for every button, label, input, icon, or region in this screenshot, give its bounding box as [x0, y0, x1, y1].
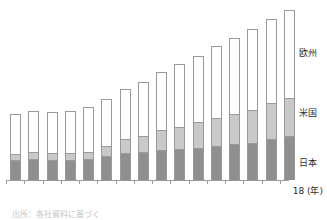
x-axis-tick	[207, 180, 208, 184]
x-axis-tick	[43, 180, 44, 184]
bar-segment-japan	[266, 139, 277, 180]
x-axis-tick	[116, 180, 117, 184]
bar-segment-europe	[266, 19, 277, 103]
bar-segment-us	[65, 153, 76, 160]
x-axis-tick	[61, 180, 62, 184]
bar-segment-japan	[174, 149, 185, 180]
x-axis-line	[6, 180, 289, 181]
x-axis-tick	[6, 180, 7, 184]
bar-segment-japan	[138, 152, 149, 180]
bar-segment-japan	[284, 136, 295, 180]
bar-13	[193, 56, 204, 180]
bar-04	[28, 111, 39, 180]
bar-segment-japan	[120, 153, 131, 180]
bar-segment-europe	[65, 111, 76, 153]
bar-segment-japan	[229, 144, 240, 180]
bar-03	[10, 114, 21, 180]
bar-segment-europe	[156, 72, 167, 130]
bar-segment-europe	[10, 114, 21, 154]
bar-segment-japan	[65, 160, 76, 181]
bar-segment-us	[266, 103, 277, 139]
bar-segment-europe	[120, 89, 131, 139]
bar-segment-us	[83, 152, 94, 159]
bar-segment-europe	[211, 46, 222, 117]
bar-segment-japan	[10, 160, 21, 180]
bar-segment-europe	[83, 107, 94, 151]
bar-17	[266, 19, 277, 180]
x-axis-tick	[189, 180, 190, 184]
series-label-us: 米国	[299, 108, 317, 119]
bar-segment-us	[174, 127, 185, 149]
x-axis-tick	[24, 180, 25, 184]
bar-segment-europe	[284, 10, 295, 98]
bar-06	[65, 111, 76, 180]
bar-09	[120, 89, 131, 180]
x-axis-tick	[262, 180, 263, 184]
bar-segment-japan	[47, 160, 58, 181]
stacked-bar-chart: 欧州 米国 日本 18 (年) 出所：各社資料に基づく	[0, 0, 327, 220]
bar-segment-us	[229, 114, 240, 144]
x-axis-tick	[225, 180, 226, 184]
bar-segment-us	[10, 154, 21, 161]
bar-segment-europe	[138, 82, 149, 136]
bar-segment-japan	[83, 159, 94, 180]
bar-segment-japan	[28, 159, 39, 180]
bar-segment-us	[193, 122, 204, 147]
bar-10	[138, 82, 149, 180]
x-axis-tick	[79, 180, 80, 184]
bar-segment-europe	[28, 111, 39, 153]
bar-segment-us	[120, 139, 131, 153]
source-note: 出所：各社資料に基づく	[12, 210, 100, 219]
bar-18	[284, 10, 295, 180]
bar-11	[156, 72, 167, 180]
bar-segment-us	[247, 110, 258, 143]
x-axis-tick	[280, 180, 281, 184]
bar-segment-japan	[193, 148, 204, 180]
x-axis-tick	[152, 180, 153, 184]
bar-segment-europe	[247, 29, 258, 110]
series-label-japan: 日本	[299, 158, 317, 169]
bar-segment-japan	[211, 146, 222, 180]
bar-16	[247, 29, 258, 180]
bar-14	[211, 46, 222, 180]
bar-08	[101, 99, 112, 180]
bar-segment-japan	[247, 143, 258, 180]
bar-05	[47, 112, 58, 180]
bar-segment-europe	[101, 99, 112, 146]
bar-segment-japan	[101, 156, 112, 180]
plot-area	[10, 8, 295, 180]
bar-segment-us	[138, 136, 149, 152]
bar-segment-japan	[156, 150, 167, 180]
bar-segment-europe	[229, 38, 240, 114]
bar-segment-us	[211, 118, 222, 146]
bar-segment-us	[47, 153, 58, 160]
x-axis-tick	[97, 180, 98, 184]
bar-segment-us	[284, 98, 295, 136]
bar-12	[174, 64, 185, 180]
bar-segment-us	[101, 146, 112, 157]
x-axis-tick	[170, 180, 171, 184]
x-axis-label: 18 (年)	[293, 186, 323, 197]
bar-segment-us	[156, 130, 167, 150]
bar-segment-us	[28, 152, 39, 159]
bar-segment-europe	[193, 56, 204, 123]
bar-segment-europe	[47, 112, 58, 153]
x-axis-tick	[243, 180, 244, 184]
bar-segment-europe	[174, 64, 185, 127]
bar-15	[229, 38, 240, 180]
series-label-europe: 欧州	[299, 48, 317, 59]
x-axis-tick	[134, 180, 135, 184]
bar-07	[83, 107, 94, 180]
